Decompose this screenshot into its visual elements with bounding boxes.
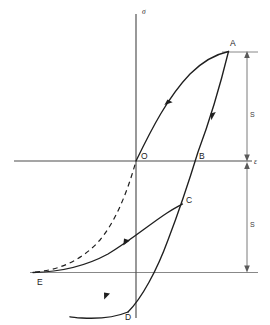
dimension-arrow-lower-top [244,162,250,169]
hysteresis-diagram: σ ε S S A B C D E O [0,0,270,325]
dimension-arrow-lower-bottom [244,266,250,273]
loading-branch-curve [136,52,229,162]
point-label-B: B [199,151,205,161]
dimension-label-upper: S [250,111,255,118]
dimension-label-lower: S [250,221,255,228]
point-label-E: E [37,277,43,287]
arrow-lower-tail [104,293,110,300]
arrow-loading-branch [164,99,173,105]
initial-curve-dashed [35,161,136,272]
point-label-A: A [230,38,236,48]
point-label-D: D [125,312,131,322]
strain-axis-label: ε [254,157,257,166]
hysteresis-figure: σ ε S S A B C D E O [0,0,270,325]
point-label-C: C [186,195,192,205]
reloading-branch-curve [33,204,183,273]
lower-tail-curve [70,312,128,318]
stress-axis-label: σ [142,7,146,16]
point-label-O: O [141,151,148,161]
